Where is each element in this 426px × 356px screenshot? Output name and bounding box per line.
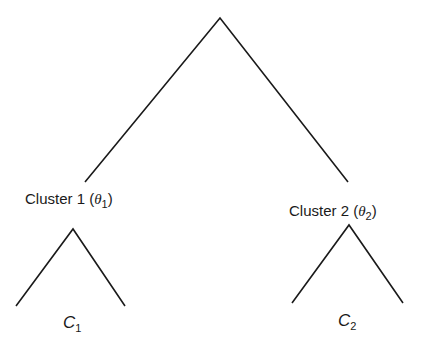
- cluster-1-name: Cluster 1: [25, 190, 85, 207]
- leaf-c2-symbol: C: [338, 311, 350, 330]
- leaf-c1-symbol: C: [63, 313, 75, 332]
- leaf-c1-index: 1: [75, 322, 81, 334]
- cluster-1-label: Cluster 1 (θ1): [25, 190, 113, 210]
- tree-edges: [0, 0, 426, 356]
- leaf-c2-label: C2: [338, 311, 356, 332]
- theta-1-index: 1: [102, 198, 108, 210]
- root-branches: [85, 18, 348, 182]
- theta-1-symbol: θ: [94, 191, 101, 207]
- cluster-1-subtree: [16, 229, 125, 306]
- leaf-c2-index: 2: [350, 320, 356, 332]
- cluster-2-subtree: [292, 225, 403, 303]
- leaf-c1-label: C1: [63, 313, 81, 334]
- theta-2-index: 2: [366, 210, 372, 222]
- theta-2-symbol: θ: [358, 203, 365, 219]
- cluster-2-label: Cluster 2 (θ2): [289, 202, 377, 222]
- cluster-2-name: Cluster 2: [289, 202, 349, 219]
